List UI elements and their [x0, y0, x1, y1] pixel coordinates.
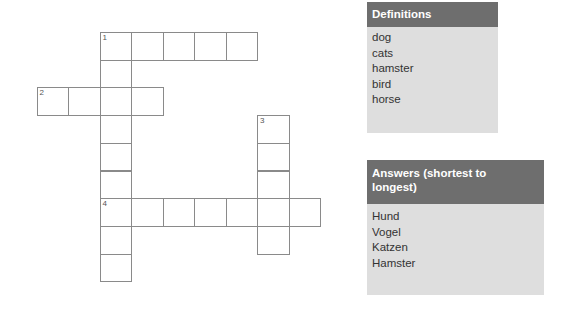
definition-item: bird [372, 77, 493, 93]
crossword-cell[interactable] [257, 226, 290, 255]
definitions-panel: Definitions dog cats hamster bird horse [367, 2, 498, 133]
crossword-cell[interactable] [257, 171, 290, 200]
crossword-cell[interactable] [100, 87, 133, 116]
answers-header: Answers (shortest to longest) [367, 160, 544, 204]
clue-number: 1 [103, 34, 107, 42]
answers-panel: Answers (shortest to longest) Hund Vogel… [367, 160, 544, 295]
answer-item: Vogel [372, 225, 539, 241]
clue-number: 4 [103, 200, 107, 208]
crossword-cell[interactable]: 3 [257, 115, 290, 144]
crossword-cell[interactable] [163, 198, 196, 227]
crossword-cell[interactable] [100, 254, 133, 283]
crossword-cell[interactable] [68, 87, 101, 116]
crossword-cell[interactable] [100, 115, 133, 144]
crossword-cell[interactable] [226, 32, 259, 61]
definition-item: cats [372, 46, 493, 62]
crossword-cell[interactable] [194, 32, 227, 61]
crossword-cell[interactable] [257, 198, 290, 227]
crossword-cell[interactable] [131, 198, 164, 227]
definitions-list: dog cats hamster bird horse [367, 27, 498, 133]
crossword-cell[interactable] [100, 143, 133, 172]
crossword-cell[interactable] [289, 198, 322, 227]
crossword-cell[interactable] [257, 143, 290, 172]
crossword-cell[interactable]: 2 [37, 87, 70, 116]
crossword-cell[interactable] [100, 226, 133, 255]
crossword-cell[interactable] [131, 87, 164, 116]
answer-item: Katzen [372, 240, 539, 256]
crossword-cell[interactable] [100, 171, 133, 200]
crossword-cell[interactable]: 1 [100, 32, 133, 61]
crossword-cell[interactable] [100, 60, 133, 89]
answer-item: Hamster [372, 256, 539, 272]
clue-number: 2 [40, 89, 44, 97]
answers-list: Hund Vogel Katzen Hamster [367, 204, 544, 295]
definition-item: dog [372, 30, 493, 46]
definitions-header: Definitions [367, 2, 498, 27]
definition-item: hamster [372, 61, 493, 77]
crossword-cell[interactable] [194, 198, 227, 227]
crossword-cell[interactable] [226, 198, 259, 227]
crossword-grid: 1423 [0, 0, 340, 310]
crossword-cell[interactable] [131, 32, 164, 61]
definition-item: horse [372, 92, 493, 108]
answer-item: Hund [372, 209, 539, 225]
clue-number: 3 [260, 117, 264, 125]
crossword-cell[interactable] [163, 32, 196, 61]
crossword-cell[interactable]: 4 [100, 198, 133, 227]
